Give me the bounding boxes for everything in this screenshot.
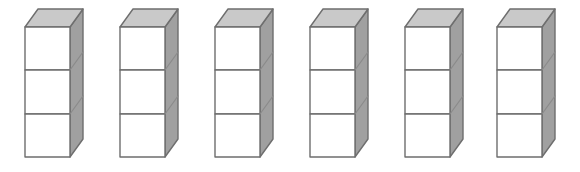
cube-front-face-top [497, 27, 542, 70]
cube-tower-2 [113, 0, 203, 172]
cube-tower-6 [490, 0, 580, 172]
cube-tower-scene [0, 0, 580, 172]
cube-tower-3 [208, 0, 298, 172]
cube-front-face-bottom [497, 114, 542, 157]
cube-front-face-middle [310, 70, 355, 114]
cube-tower-4 [303, 0, 393, 172]
tower-drawing [208, 0, 298, 172]
tower-side-face [70, 9, 83, 157]
tower-drawing [303, 0, 393, 172]
cube-tower-1 [18, 0, 108, 172]
cube-front-face-bottom [25, 114, 70, 157]
tower-side-face [260, 9, 273, 157]
cube-front-face-top [405, 27, 450, 70]
cube-front-face-top [215, 27, 260, 70]
cube-front-face-bottom [405, 114, 450, 157]
tower-drawing [113, 0, 203, 172]
cube-front-face-middle [215, 70, 260, 114]
tower-side-face [542, 9, 555, 157]
cube-front-face-middle [497, 70, 542, 114]
cube-front-face-bottom [120, 114, 165, 157]
cube-front-face-top [25, 27, 70, 70]
tower-side-face [450, 9, 463, 157]
tower-side-face [165, 9, 178, 157]
cube-front-face-top [120, 27, 165, 70]
tower-drawing [398, 0, 488, 172]
cube-front-face-bottom [215, 114, 260, 157]
cube-front-face-middle [405, 70, 450, 114]
cube-front-face-top [310, 27, 355, 70]
tower-drawing [18, 0, 108, 172]
cube-front-face-bottom [310, 114, 355, 157]
cube-front-face-middle [120, 70, 165, 114]
tower-side-face [355, 9, 368, 157]
cube-front-face-middle [25, 70, 70, 114]
tower-drawing [490, 0, 580, 172]
cube-tower-5 [398, 0, 488, 172]
